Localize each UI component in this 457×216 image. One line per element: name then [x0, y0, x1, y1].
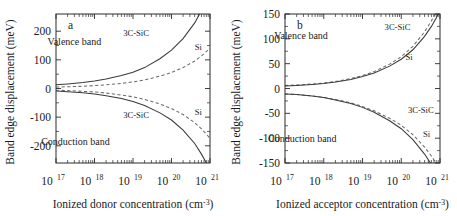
y-tick-label: 150 [263, 8, 281, 20]
curve-si-valence [285, 11, 440, 87]
x-tick-exponent: 17 [286, 173, 294, 182]
x-axis-title-main: Ionized acceptor concentration (cm [276, 198, 439, 211]
x-axis-title: Ionized donor concentration (cm-3) [53, 198, 214, 211]
y-tick-label: -100 [30, 111, 51, 123]
x-tick-label: 10 [195, 175, 207, 187]
panel-b-svg: 150100500-50-100-15010171018101910201021… [228, 0, 457, 216]
conduction-band-label: Conduction band [268, 133, 337, 144]
curve-annotation-3c-sic: 3C-SiC [123, 28, 149, 38]
x-tick-exponent: 21 [211, 173, 219, 182]
x-tick-label: 10 [425, 175, 437, 187]
y-tick-label: -150 [259, 157, 280, 169]
curve-annotation-si: Si [195, 42, 203, 52]
y-tick-label: 0 [45, 83, 51, 95]
y-axis-title: Band edge displacement (meV) [230, 19, 243, 164]
x-axis-title: Ionized acceptor concentration (cm-3) [276, 198, 449, 211]
x-tick-exponent: 18 [325, 173, 333, 182]
y-tick-label: 0 [274, 83, 280, 95]
x-tick-label: 10 [270, 175, 282, 187]
panel-a-svg: 2001000-100-20010171018101910201021aVale… [0, 0, 229, 216]
x-tick-label: 10 [157, 175, 169, 187]
y-tick-label: 100 [34, 54, 52, 66]
x-axis-title-tail: ) [210, 198, 214, 211]
x-axis-title-main: Ionized donor concentration (cm [53, 198, 203, 211]
chart-panel-a: 2001000-100-20010171018101910201021aVale… [0, 0, 229, 216]
x-tick-exponent: 17 [57, 173, 65, 182]
curve-si-valence [56, 48, 210, 87]
x-axis-title-tail: ) [445, 198, 449, 211]
x-tick-label: 10 [348, 175, 360, 187]
y-axis-title: Band edge displacement (meV) [4, 19, 17, 164]
x-tick-exponent: 20 [173, 173, 181, 182]
y-tick-label: -50 [265, 107, 281, 119]
curve-annotation-si: Si [406, 52, 414, 62]
valence-band-label: Valence band [48, 36, 102, 47]
curve-annotation-3c-sic: 3C-SiC [385, 22, 411, 32]
valence-band-label: Valence band [274, 30, 328, 41]
chart-panel-b: 150100500-50-100-15010171018101910201021… [228, 0, 457, 216]
x-tick-label: 10 [41, 175, 53, 187]
x-tick-label: 10 [309, 175, 321, 187]
x-tick-label: 10 [118, 175, 130, 187]
x-tick-exponent: 21 [441, 173, 449, 182]
curve-annotation-si: Si [195, 107, 203, 117]
x-tick-exponent: 19 [134, 173, 142, 182]
x-tick-exponent: 19 [364, 173, 372, 182]
y-tick-label: 50 [269, 58, 281, 70]
x-tick-label: 10 [80, 175, 92, 187]
x-tick-exponent: 18 [96, 173, 104, 182]
figure-container: 2001000-100-20010171018101910201021aVale… [0, 0, 457, 216]
panel-letter: a [68, 19, 73, 31]
x-tick-exponent: 20 [402, 173, 410, 182]
curve-annotation-3c-sic: 3C-SiC [408, 105, 434, 115]
conduction-band-label: Conduction band [41, 136, 110, 147]
x-tick-label: 10 [387, 175, 399, 187]
curve-annotation-3c-sic: 3C-SiC [123, 110, 149, 120]
curve-annotation-si: Si [423, 129, 431, 139]
